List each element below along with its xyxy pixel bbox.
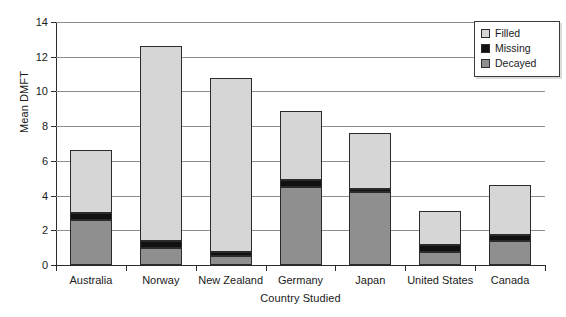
segment-filled-japan [349,133,391,189]
segment-decayed-new-zealand [210,256,252,265]
segment-missing-norway [140,241,182,248]
segment-filled-germany [280,111,322,180]
x-tick-mark-5 [405,265,406,271]
x-tick-label-japan: Japan [355,274,385,286]
x-tick-label-norway: Norway [142,274,179,286]
legend-label-missing: Missing [495,43,531,54]
x-tick-mark-0 [56,265,57,271]
segment-decayed-canada [489,241,531,265]
legend: Filled Missing Decayed [474,21,560,77]
segment-decayed-germany [280,187,322,265]
y-tick-label-8: 8 [22,121,48,132]
y-tick-label-4: 4 [22,190,48,201]
y-tick-mark-2 [51,230,56,231]
bar-germany[interactable] [280,22,322,265]
y-tick-mark-12 [51,57,56,58]
bar-japan[interactable] [349,22,391,265]
segment-filled-norway [140,46,182,240]
segment-filled-united-states [419,211,461,245]
y-tick-mark-14 [51,22,56,23]
segment-filled-canada [489,185,531,235]
y-tick-label-14: 14 [22,17,48,28]
bar-new-zealand[interactable] [210,22,252,265]
legend-item-missing: Missing [481,41,554,56]
segment-missing-new-zealand [210,252,252,256]
y-tick-label-10: 10 [22,86,48,97]
legend-label-filled: Filled [495,28,520,39]
x-tick-mark-2 [196,265,197,271]
segment-missing-japan [349,189,391,192]
y-tick-label-2: 2 [22,225,48,236]
y-tick-label-12: 12 [22,51,48,62]
segment-decayed-australia [70,220,112,265]
x-tick-label-australia: Australia [70,274,113,286]
y-tick-mark-8 [51,126,56,127]
y-tick-mark-4 [51,196,56,197]
segment-missing-united-states [419,245,461,252]
segment-decayed-japan [349,192,391,265]
y-axis-line [56,22,57,265]
y-tick-label-6: 6 [22,155,48,166]
plot-area: 02468101214 AustraliaNorwayNew ZealandGe… [56,22,545,265]
legend-item-filled: Filled [481,26,554,41]
segment-decayed-united-states [419,252,461,265]
legend-item-decayed: Decayed [481,56,554,71]
bar-norway[interactable] [140,22,182,265]
legend-swatch-missing [481,44,490,53]
x-tick-label-germany: Germany [278,274,323,286]
x-axis-title: Country Studied [56,292,545,304]
legend-swatch-decayed [481,59,490,68]
x-tick-mark-3 [266,265,267,271]
x-tick-label-united-states: United States [407,274,473,286]
segment-decayed-norway [140,248,182,265]
x-tick-label-canada: Canada [491,274,530,286]
y-tick-mark-6 [51,161,56,162]
x-tick-mark-6 [475,265,476,271]
x-tick-label-new-zealand: New Zealand [198,274,263,286]
dmft-stacked-bar-chart: Mean DMFT Country Studied 02468101214 Au… [0,0,566,317]
x-tick-mark-end [545,265,546,271]
legend-label-decayed: Decayed [495,58,536,69]
segment-missing-australia [70,213,112,220]
segment-missing-germany [280,180,322,187]
x-tick-mark-4 [335,265,336,271]
bar-australia[interactable] [70,22,112,265]
x-tick-mark-1 [126,265,127,271]
segment-missing-canada [489,235,531,240]
segment-filled-new-zealand [210,78,252,252]
legend-swatch-filled [481,29,490,38]
y-tick-mark-10 [51,91,56,92]
x-axis-line [56,265,545,266]
bar-united-states[interactable] [419,22,461,265]
y-tick-label-0: 0 [22,260,48,271]
segment-filled-australia [70,150,112,212]
